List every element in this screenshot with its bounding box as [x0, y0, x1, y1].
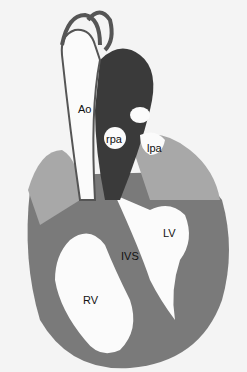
label-right-ventricle: RV: [83, 295, 98, 306]
label-right-pulmonary-artery: rpa: [106, 134, 122, 145]
label-interventricular-septum: IVS: [121, 251, 139, 262]
label-left-ventricle: LV: [163, 228, 176, 239]
heart-histology-figure: Ao rpa lpa LV IVS RV: [0, 0, 247, 372]
label-left-pulmonary-artery: lpa: [147, 143, 162, 154]
label-aorta: Ao: [78, 104, 91, 115]
tissue-illustration: [0, 0, 247, 372]
